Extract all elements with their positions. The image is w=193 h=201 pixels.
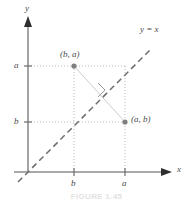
plot-canvas [0,0,193,201]
x-axis-arrow-icon [161,168,172,176]
reflection-segment [74,66,125,122]
identity-line-label: y = x [140,25,159,34]
point-label-a-b: (a, b) [131,115,151,124]
x-axis-label: x [177,165,181,174]
y-tick-label-a: a [14,61,19,70]
figure-caption: FIGURE 1.45 [0,193,193,201]
y-tick-label-b: b [14,117,19,126]
x-tick-label-b: b [71,179,76,188]
data-point-a-b [122,119,127,124]
right-angle-marker-icon [98,83,105,97]
point-label-b-a: (b, a) [60,50,80,59]
data-point-b-a [71,63,76,68]
y-axis-arrow-icon [24,16,32,27]
x-tick-label-a: a [122,179,127,188]
y-axis-label: y [25,4,29,13]
figure-container: y x a b b a (b, a) (a, b) y = x FIGURE 1… [0,0,193,201]
